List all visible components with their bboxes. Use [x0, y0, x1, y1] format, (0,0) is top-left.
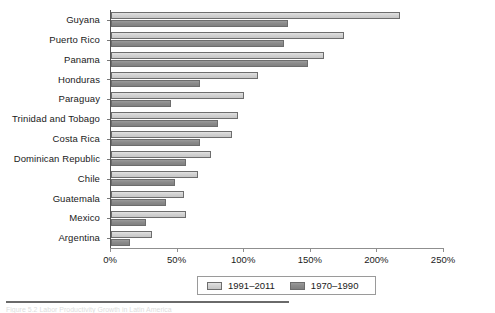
- bar-group: [111, 208, 444, 228]
- figure-caption: Figure 5.2 Labor Productivity Growth in …: [6, 306, 436, 313]
- figure-container: Guyana Puerto Rico Panama Honduras Parag…: [0, 0, 495, 313]
- x-axis-tick: [376, 248, 377, 252]
- y-axis-tick: [107, 99, 110, 100]
- legend-entry-early: 1970–1990: [290, 280, 367, 291]
- bar-early: [111, 239, 130, 246]
- x-axis-tick-label: 50%: [167, 254, 186, 265]
- bar-recent: [111, 231, 152, 238]
- x-axis-tick-label: 200%: [364, 254, 388, 265]
- bar-recent: [111, 72, 258, 79]
- category-label: Puerto Rico: [0, 30, 105, 50]
- legend-label: 1991–2011: [228, 280, 275, 291]
- y-axis-tick: [107, 238, 110, 239]
- x-axis-tick-label: 150%: [298, 254, 322, 265]
- plot-area: 0%50%100%150%200%250%: [110, 10, 444, 248]
- bar-group: [111, 30, 444, 50]
- category-label: Honduras: [0, 69, 105, 89]
- legend-label: 1970–1990: [311, 280, 359, 291]
- bar-recent: [111, 171, 198, 178]
- x-axis-tick-label: 250%: [431, 254, 455, 265]
- x-axis-tick: [110, 248, 111, 252]
- bar-early: [111, 40, 284, 47]
- bar-early: [111, 159, 186, 166]
- x-axis-tick-label: 0%: [103, 254, 117, 265]
- y-axis-tick: [107, 79, 110, 80]
- bar-recent: [111, 211, 186, 218]
- y-axis-tick: [107, 20, 110, 21]
- bar-recent: [111, 52, 324, 59]
- x-axis-line: [110, 248, 444, 249]
- bar-recent: [111, 92, 244, 99]
- bar-early: [111, 179, 175, 186]
- x-axis-tick-label: 100%: [231, 254, 255, 265]
- legend-swatch-icon: [207, 282, 222, 290]
- category-label: Argentina: [0, 228, 105, 248]
- bar-group: [111, 129, 444, 149]
- x-axis-tick: [443, 248, 444, 252]
- y-axis-tick: [107, 40, 110, 41]
- bar-group: [111, 50, 444, 70]
- bar-group: [111, 109, 444, 129]
- chart-legend: 1991–2011 1970–1990: [197, 276, 376, 295]
- category-label: Dominican Republic: [0, 149, 105, 169]
- x-axis-tick: [310, 248, 311, 252]
- x-axis-tick: [177, 248, 178, 252]
- category-label: Trinidad and Tobago: [0, 109, 105, 129]
- bar-group: [111, 189, 444, 209]
- category-label: Guatemala: [0, 188, 105, 208]
- bar-early: [111, 120, 218, 127]
- bar-early: [111, 199, 166, 206]
- y-axis-tick: [107, 179, 110, 180]
- y-axis-tick: [107, 218, 110, 219]
- bar-early: [111, 80, 200, 87]
- y-axis-tick: [107, 159, 110, 160]
- bar-early: [111, 139, 200, 146]
- category-label: Paraguay: [0, 89, 105, 109]
- y-axis-tick: [107, 119, 110, 120]
- bar-recent: [111, 191, 184, 198]
- y-axis-tick: [107, 60, 110, 61]
- bar-group: [111, 10, 444, 30]
- category-label: Chile: [0, 169, 105, 189]
- bar-early: [111, 20, 288, 27]
- bar-group: [111, 70, 444, 90]
- bar-early: [111, 100, 171, 107]
- bar-recent: [111, 12, 400, 19]
- legend-entry-recent: 1991–2011: [207, 280, 283, 291]
- category-label: Panama: [0, 50, 105, 70]
- y-axis-tick: [107, 198, 110, 199]
- legend-swatch-icon: [290, 282, 305, 290]
- bar-recent: [111, 151, 211, 158]
- bar-recent: [111, 32, 344, 39]
- bar-group: [111, 149, 444, 169]
- bar-early: [111, 60, 308, 67]
- category-label: Costa Rica: [0, 129, 105, 149]
- y-axis-tick: [107, 139, 110, 140]
- x-axis-tick: [243, 248, 244, 252]
- category-label-column: Guyana Puerto Rico Panama Honduras Parag…: [0, 10, 105, 248]
- category-label: Mexico: [0, 208, 105, 228]
- bar-recent: [111, 131, 232, 138]
- bar-early: [111, 219, 146, 226]
- caption-divider: [6, 301, 289, 303]
- bar-group: [111, 169, 444, 189]
- bar-group: [111, 228, 444, 248]
- bar-group: [111, 89, 444, 109]
- bar-recent: [111, 112, 238, 119]
- category-label: Guyana: [0, 10, 105, 30]
